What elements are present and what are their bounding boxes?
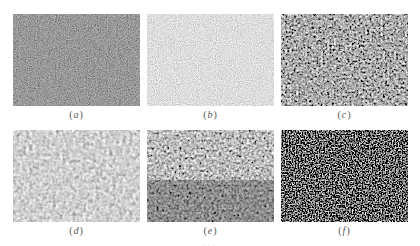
panel-a-image xyxy=(13,14,140,106)
panel-e-image xyxy=(147,130,274,222)
panel-c-label: (c) xyxy=(281,109,408,120)
panel-f-label: (f) xyxy=(281,225,408,236)
panel-c-image xyxy=(281,14,408,106)
panel-d-label: (d) xyxy=(13,225,140,236)
panel-d-image xyxy=(13,130,140,222)
panel-a-label: (a) xyxy=(13,109,140,120)
panel-b-label: (b) xyxy=(147,109,274,120)
figure-caption-faint: ... xyxy=(140,238,280,246)
panel-b-image xyxy=(147,14,274,106)
panel-f-image xyxy=(281,130,408,222)
panel-e-label: (e) xyxy=(147,225,274,236)
